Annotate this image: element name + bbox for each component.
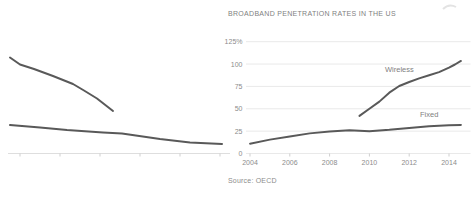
x-tick-label: 2014 — [441, 159, 457, 166]
y-tick-label: 50 — [235, 105, 243, 112]
fixed-series-label: Fixed — [420, 110, 438, 119]
chart-title: BROADBAND PENETRATION RATES IN THE US — [228, 10, 396, 17]
x-tick-label: 2008 — [322, 159, 338, 166]
y-tick-label: 0 — [239, 150, 243, 157]
wireless-series-label: Wireless — [385, 65, 414, 74]
x-tick-label: 2012 — [401, 159, 417, 166]
y-tick-label: 100 — [231, 61, 243, 68]
y-tick-label: 75 — [235, 83, 243, 90]
left-chart-series-lower-declining-line — [10, 125, 222, 144]
dashboard-canvas: 125%1007550250200420062008201020122014 B… — [0, 0, 475, 197]
left-chart-series-upper-declining-line — [10, 58, 113, 112]
y-tick-label: 25 — [235, 128, 243, 135]
series-fixed — [250, 125, 461, 144]
x-tick-label: 2004 — [242, 159, 258, 166]
x-tick-label: 2010 — [362, 159, 378, 166]
source-note: Source: OECD — [228, 177, 277, 184]
x-tick-label: 2006 — [282, 159, 298, 166]
artifact-smudge — [443, 5, 456, 9]
line-charts-svg: 125%1007550250200420062008201020122014 — [0, 0, 475, 197]
y-tick-label: 125% — [225, 38, 243, 45]
